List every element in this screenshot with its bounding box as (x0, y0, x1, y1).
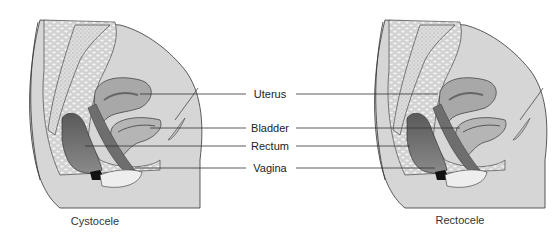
label-rectum: Rectum (251, 140, 289, 152)
label-bladder: Bladder (251, 122, 289, 134)
caption-rectocele: Rectocele (436, 214, 485, 226)
diagram-artwork (0, 0, 556, 242)
caption-cystocele: Cystocele (71, 215, 119, 227)
label-uterus: Uterus (254, 88, 286, 100)
cystocele-diagram (30, 20, 202, 208)
rectocele-diagram (375, 20, 547, 208)
label-vagina: Vagina (253, 162, 286, 174)
